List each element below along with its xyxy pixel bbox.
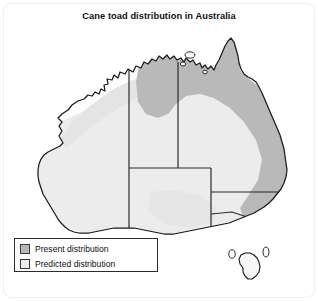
legend-item-present: Present distribution <box>18 241 154 256</box>
page-title: Cane toad distribution in Australia <box>0 11 318 21</box>
legend-label-present: Present distribution <box>35 244 109 254</box>
melville-island <box>185 52 195 58</box>
tasmania-outline <box>239 253 260 279</box>
legend-item-predicted: Predicted distribution <box>18 256 154 271</box>
groote-eylandt-island <box>203 70 207 74</box>
legend-swatch-predicted <box>20 259 30 269</box>
flinders-island <box>263 247 269 257</box>
legend-swatch-present <box>20 244 30 254</box>
king-island <box>229 250 235 258</box>
bathurst-island <box>180 62 185 66</box>
legend-label-predicted: Predicted distribution <box>35 259 115 269</box>
map-legend: Present distribution Predicted distribut… <box>14 238 158 272</box>
present-region-nsw-coast <box>242 214 272 232</box>
figure-card: Cane toad distribution in Australia <box>0 0 318 301</box>
tasmania-group <box>239 253 260 279</box>
